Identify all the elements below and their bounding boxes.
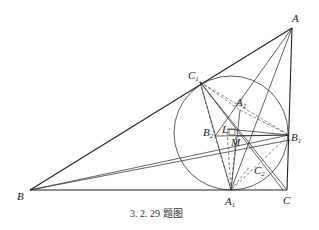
- label-B1: B1: [291, 131, 301, 145]
- triangle-abc: [30, 28, 292, 190]
- label-C: C: [283, 194, 291, 206]
- label-B2: B2: [203, 126, 214, 140]
- label-A: A: [291, 12, 299, 24]
- label-C2: C2: [254, 164, 265, 178]
- label-B: B: [17, 190, 24, 202]
- label-A1: A1: [224, 195, 235, 209]
- label-C1: C1: [188, 69, 199, 83]
- geometry-diagram: A B C A1 B1 C1 A2 B2 C2 L M 3. 2. 29 题图: [0, 0, 319, 230]
- label-A2: A2: [235, 96, 247, 110]
- figure-caption: 3. 2. 29 题图: [130, 208, 183, 219]
- label-L: L: [221, 123, 228, 135]
- label-M: M: [230, 136, 241, 148]
